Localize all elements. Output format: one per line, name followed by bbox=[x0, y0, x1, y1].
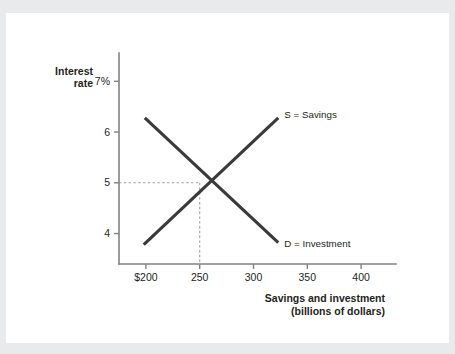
x-tick-label: 350 bbox=[299, 271, 317, 283]
y-tick-label: 5 bbox=[104, 176, 110, 188]
y-tick-label: 4 bbox=[104, 227, 110, 239]
curve-label-savings: S = Savings bbox=[284, 109, 337, 120]
figure-card: 7%654$200250300350400InterestrateSavings… bbox=[6, 13, 449, 343]
x-axis-title-units: (billions of dollars) bbox=[291, 305, 385, 317]
x-tick-label: 400 bbox=[352, 271, 370, 283]
y-axis-title: Interest bbox=[55, 65, 93, 77]
x-tick-label: $200 bbox=[134, 271, 158, 283]
y-tick-label: 7% bbox=[95, 75, 110, 87]
x-tick-label: 250 bbox=[191, 271, 209, 283]
x-axis-title: Savings and investment bbox=[265, 292, 386, 304]
curve-label-investment: D = Investment bbox=[284, 238, 350, 249]
y-axis-title-line2: rate bbox=[74, 77, 93, 89]
y-tick-label: 6 bbox=[104, 126, 110, 138]
savings-investment-chart: 7%654$200250300350400InterestrateSavings… bbox=[6, 13, 449, 343]
x-tick-label: 300 bbox=[245, 271, 263, 283]
